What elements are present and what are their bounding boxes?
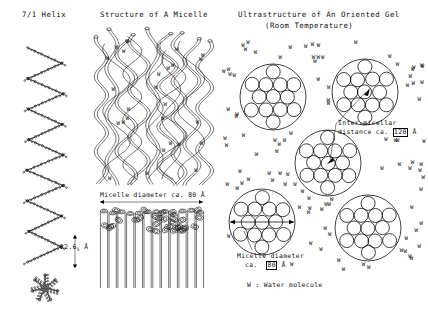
- svg-text:W: W: [410, 255, 414, 261]
- svg-text:W: W: [268, 170, 272, 176]
- svg-text:W: W: [307, 195, 311, 201]
- svg-text:W: W: [406, 82, 410, 88]
- svg-text:W: W: [327, 84, 331, 90]
- svg-text:W: W: [317, 42, 321, 48]
- svg-text:W: W: [115, 44, 119, 50]
- svg-text:W: W: [337, 257, 341, 263]
- svg-text:W: W: [286, 171, 290, 177]
- svg-text:W: W: [283, 137, 287, 143]
- svg-text:W: W: [293, 181, 297, 187]
- svg-text:W: W: [311, 41, 315, 47]
- svg-text:W: W: [412, 64, 416, 70]
- svg-text:W: W: [304, 43, 308, 49]
- svg-text:W: W: [411, 159, 415, 165]
- gel-micelle-clusters: [229, 59, 401, 261]
- svg-text:W: W: [246, 39, 250, 45]
- svg-text:W: W: [225, 181, 229, 187]
- svg-text:W: W: [422, 138, 426, 144]
- svg-text:W: W: [354, 39, 358, 45]
- svg-text:W: W: [388, 53, 392, 59]
- svg-text:W: W: [275, 148, 279, 154]
- svg-text:W: W: [409, 73, 413, 79]
- svg-text:W: W: [157, 71, 161, 77]
- svg-text:W: W: [117, 120, 121, 126]
- svg-text:W: W: [273, 137, 277, 143]
- svg-text:W: W: [289, 44, 293, 50]
- svg-text:W: W: [410, 204, 414, 210]
- svg-text:W: W: [418, 167, 422, 173]
- svg-text:W: W: [223, 135, 227, 141]
- svg-text:W: W: [298, 204, 302, 210]
- svg-text:W: W: [412, 80, 416, 86]
- svg-text:W: W: [422, 174, 426, 180]
- svg-text:W: W: [415, 227, 419, 233]
- svg-text:W: W: [242, 132, 246, 138]
- svg-text:W: W: [235, 111, 239, 117]
- svg-text:W: W: [240, 180, 244, 186]
- helix-projection-graphic: [31, 274, 59, 302]
- svg-text:W: W: [127, 106, 131, 112]
- svg-text:W: W: [420, 220, 424, 226]
- svg-text:W: W: [408, 165, 412, 171]
- helix-rise-arrow: [73, 235, 77, 268]
- svg-text:W: W: [162, 147, 166, 153]
- svg-text:W: W: [289, 130, 293, 136]
- svg-text:W: W: [417, 243, 421, 249]
- svg-text:W: W: [420, 161, 424, 167]
- svg-text:W: W: [278, 170, 282, 176]
- svg-text:W: W: [419, 186, 423, 192]
- micelle-diameter-arrow: [100, 200, 203, 204]
- svg-text:W: W: [384, 136, 388, 142]
- svg-text:W: W: [284, 181, 288, 187]
- svg-text:W: W: [278, 141, 282, 147]
- diagram-canvas: 7/1 Helix Structure of A Micelle Ultrast…: [0, 0, 428, 324]
- diagram-vector-layer: WWWWWWWWWWWWWWWWWWWWWWWWWW WWWWWWWWWWWWW…: [0, 0, 428, 324]
- svg-text:W: W: [342, 266, 346, 272]
- svg-text:W: W: [163, 101, 167, 107]
- svg-text:W: W: [362, 261, 366, 267]
- svg-text:W: W: [122, 48, 126, 54]
- svg-text:W: W: [108, 175, 112, 181]
- svg-text:W: W: [398, 161, 402, 167]
- svg-text:W: W: [420, 79, 424, 85]
- svg-text:W: W: [222, 68, 226, 74]
- svg-text:W: W: [319, 246, 323, 252]
- svg-text:W: W: [169, 140, 173, 146]
- svg-text:W: W: [404, 235, 408, 241]
- micelle-rod-bundle: [100, 206, 203, 288]
- svg-text:W: W: [194, 167, 198, 173]
- svg-text:W: W: [324, 225, 328, 231]
- svg-text:W: W: [227, 233, 231, 239]
- svg-text:W: W: [301, 188, 305, 194]
- helix-chain-graphic: [23, 47, 68, 265]
- svg-text:W: W: [309, 240, 313, 246]
- svg-text:W: W: [200, 140, 204, 146]
- svg-text:W: W: [225, 142, 229, 148]
- svg-text:W: W: [279, 54, 283, 60]
- svg-text:W: W: [238, 168, 242, 174]
- micelle-chains-graphic: [94, 27, 214, 186]
- annotation-leader-lines: [230, 88, 370, 250]
- svg-text:W: W: [330, 196, 334, 202]
- svg-text:W: W: [327, 100, 331, 106]
- svg-text:W: W: [271, 177, 275, 183]
- svg-text:W: W: [417, 96, 421, 102]
- svg-text:W: W: [380, 165, 384, 171]
- svg-text:W: W: [316, 76, 320, 82]
- svg-text:W: W: [247, 176, 251, 182]
- svg-text:W: W: [254, 49, 258, 55]
- svg-text:W: W: [196, 119, 200, 125]
- svg-text:W: W: [328, 231, 332, 237]
- svg-text:W: W: [227, 106, 231, 112]
- svg-text:W: W: [255, 151, 259, 157]
- svg-text:W: W: [236, 185, 240, 191]
- svg-text:W: W: [403, 248, 407, 254]
- svg-text:W: W: [106, 55, 110, 61]
- svg-text:W: W: [321, 54, 325, 60]
- svg-text:W: W: [233, 72, 237, 78]
- svg-text:W: W: [396, 61, 400, 67]
- svg-text:W: W: [290, 261, 294, 267]
- svg-text:W: W: [367, 264, 371, 270]
